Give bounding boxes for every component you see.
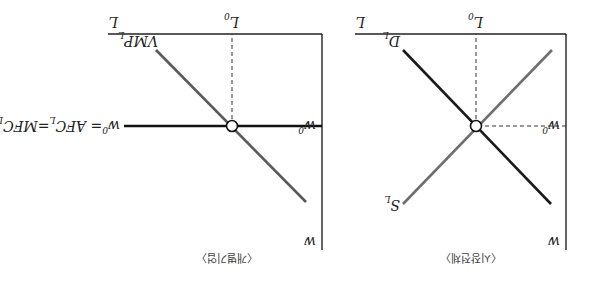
x-axis-label: L	[109, 14, 119, 30]
l0-axis-label: L0	[468, 11, 484, 30]
y-axis-label: w	[548, 234, 560, 250]
panel-individual-firm: w w0 L0 L VMPL w0= AFCL=MFCL 〈개별기업〉	[0, 11, 322, 264]
l0-axis-label: L0	[224, 11, 240, 30]
vmp-label: VMPL	[118, 30, 158, 49]
y-axis-label: w	[304, 234, 316, 250]
wage-line-label: w0= AFCL=MFCL	[0, 115, 120, 135]
caption-individual-firm: 〈개별기업〉	[196, 251, 258, 264]
supply-label: SL	[384, 194, 400, 213]
w0-axis-label: w0	[298, 118, 316, 135]
equilibrium-point	[227, 121, 238, 132]
labor-market-diagram: w w0 L0 L VMPL w0= AFCL=MFCL 〈개별기업〉	[0, 0, 594, 284]
x-axis-label: L	[356, 14, 366, 30]
demand-label: DL	[383, 30, 401, 49]
equilibrium-point	[471, 121, 482, 132]
rotated-figure: w w0 L0 L VMPL w0= AFCL=MFCL 〈개별기업〉	[0, 11, 566, 264]
w0-axis-label: w0	[542, 118, 560, 135]
caption-labor-market: 〈시장전체〉	[440, 251, 502, 264]
panel-labor-market: w w0 L0 L DL SL 〈시장전체〉	[355, 11, 566, 264]
